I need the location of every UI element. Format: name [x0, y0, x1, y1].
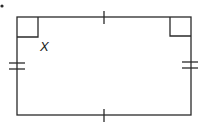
vertex-label-x: X	[39, 39, 50, 54]
right-angle-mark-top-right	[170, 17, 191, 36]
right-angle-mark-top-left	[17, 17, 38, 37]
bullet-marker	[0, 4, 3, 7]
double-tick-mark-right	[182, 62, 198, 68]
rectangle-diagram: X	[0, 0, 198, 127]
rectangle-outline	[17, 17, 191, 115]
